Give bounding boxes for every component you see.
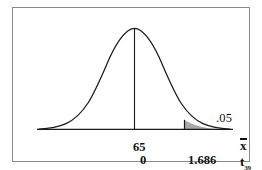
overbar-icon bbox=[240, 138, 247, 140]
center-zero-tick-label: 0 bbox=[140, 154, 146, 167]
xbar-letter: x bbox=[240, 138, 247, 153]
xbar-glyph: x bbox=[240, 139, 247, 152]
xbar-axis-label: x bbox=[240, 139, 247, 152]
t-distribution-plot bbox=[13, 8, 249, 161]
alpha-area-label: .05 bbox=[216, 112, 232, 125]
figure-frame: .05 65 0 1.686 x t39 bbox=[12, 7, 250, 162]
mean-tick-label: 65 bbox=[133, 141, 146, 154]
t-axis-label: t39 bbox=[240, 155, 251, 170]
figure-root: .05 65 0 1.686 x t39 bbox=[0, 0, 262, 170]
t-degrees-of-freedom-subscript: 39 bbox=[244, 164, 250, 170]
critical-value-tick-label: 1.686 bbox=[188, 154, 216, 167]
